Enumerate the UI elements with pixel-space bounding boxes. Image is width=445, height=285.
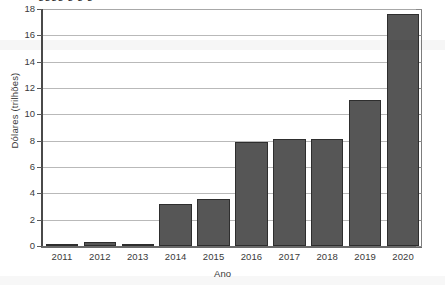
y-tick-label: 16 (13, 29, 35, 40)
plot-area: 024681012141618 (41, 9, 422, 247)
x-tick-label: 2015 (195, 251, 233, 262)
y-tick-mark (37, 220, 42, 221)
bar (159, 204, 191, 246)
y-tick-mark (37, 62, 42, 63)
x-tick-label: 2011 (43, 251, 81, 262)
bar-chart: Dólares (trilhões) 024681012141618 20112… (0, 0, 445, 285)
bar (311, 139, 343, 246)
y-tick-mark (37, 88, 42, 89)
x-tick-label: 2016 (233, 251, 271, 262)
y-tick-mark (37, 141, 42, 142)
bar (122, 244, 154, 247)
bar (235, 142, 267, 246)
x-axis-title: Ano (0, 268, 445, 279)
x-tick-label: 2012 (81, 251, 119, 262)
x-tick-label: 2013 (119, 251, 157, 262)
x-tick-label: 2020 (384, 251, 422, 262)
cropped-chart-title: gggg g g g (0, 0, 445, 7)
x-axis-tick-labels: 2011201220132014201520162017201820192020 (43, 251, 422, 265)
bar (84, 242, 116, 246)
bar (197, 199, 229, 246)
y-tick-mark (37, 114, 42, 115)
bar (273, 139, 305, 246)
y-tick-mark (37, 246, 42, 247)
y-tick-label: 12 (13, 82, 35, 93)
bar (387, 14, 419, 246)
y-tick-label: 10 (13, 108, 35, 119)
y-tick-label: 8 (13, 135, 35, 146)
y-tick-label: 4 (13, 187, 35, 198)
x-tick-label: 2019 (346, 251, 384, 262)
y-tick-mark (37, 167, 42, 168)
y-tick-label: 14 (13, 56, 35, 67)
cropped-title-text: gggg g g g (38, 0, 93, 1)
bar (46, 244, 78, 247)
bar-series (43, 9, 422, 246)
y-tick-mark-right (416, 246, 422, 247)
x-tick-label: 2018 (308, 251, 346, 262)
bar (349, 100, 381, 246)
y-tick-mark (37, 35, 42, 36)
y-tick-label: 6 (13, 161, 35, 172)
x-tick-label: 2017 (270, 251, 308, 262)
x-tick-label: 2014 (157, 251, 195, 262)
x-axis-line (41, 246, 422, 248)
y-tick-label: 0 (13, 240, 35, 251)
y-tick-mark (37, 9, 42, 10)
y-tick-mark (37, 193, 42, 194)
y-tick-label: 2 (13, 214, 35, 225)
